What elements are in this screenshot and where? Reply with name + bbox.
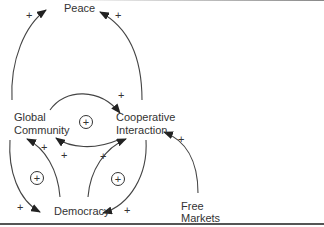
arrow-global-to-peace [12, 10, 46, 100]
node-cooperative-interaction-line2: Interaction [116, 124, 167, 137]
loop-reinforcing-left: + [30, 171, 44, 185]
polarity-sign: + [100, 151, 106, 162]
node-democracy: Democracy [54, 205, 110, 218]
loop-reinforcing-right: + [111, 172, 125, 186]
polarity-sign: + [178, 134, 184, 145]
node-global-community-line1: Global [14, 111, 46, 124]
polarity-sign: + [26, 10, 32, 21]
node-peace: Peace [64, 2, 95, 15]
loop-reinforcing-top: + [79, 115, 93, 129]
node-global-community-line2: Community [14, 124, 70, 137]
node-cooperative-interaction-line1: Cooperative [116, 111, 175, 124]
polarity-sign: + [118, 90, 124, 101]
bottom-border [0, 223, 324, 225]
polarity-sign: + [61, 150, 67, 161]
arrow-democracy-to-coop [88, 139, 126, 197]
arrow-coop-to-peace [100, 12, 142, 100]
polarity-sign: + [41, 142, 47, 153]
polarity-sign: + [115, 10, 121, 21]
polarity-sign: + [17, 202, 23, 213]
arrow-global-to-coop [50, 94, 120, 113]
arrow-coop-to-global [56, 138, 118, 147]
polarity-sign: + [124, 205, 130, 216]
